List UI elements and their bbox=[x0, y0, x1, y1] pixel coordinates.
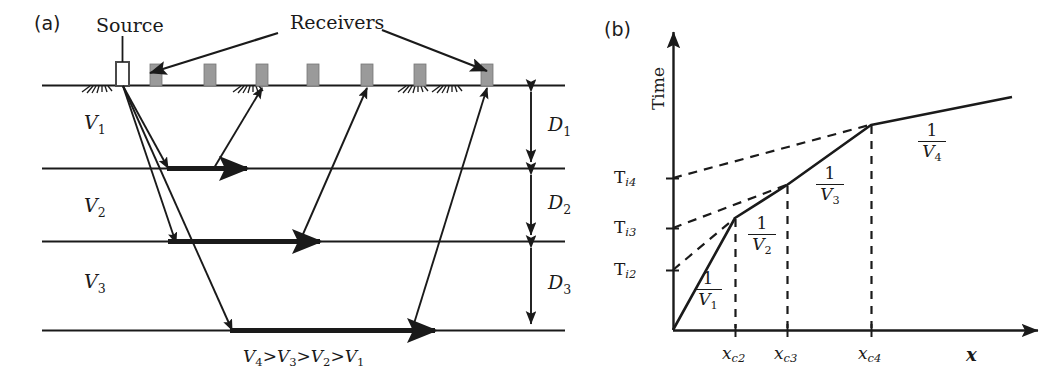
receiver-marker bbox=[361, 64, 373, 86]
velocity-label-v1-base: V bbox=[84, 111, 98, 133]
figure-root: (a) Source Receivers V1 V2 V3 D1 D2 D3 V… bbox=[0, 0, 1060, 391]
receiver-markers bbox=[150, 64, 493, 86]
receiver-marker bbox=[481, 64, 493, 86]
slope-v2-denominator: V2 bbox=[746, 236, 778, 257]
y-tick-ti2-sub: i2 bbox=[625, 267, 636, 281]
slope-v1-denominator: V1 bbox=[692, 291, 724, 312]
slope-label-1-over-v4: 1 V4 bbox=[916, 122, 948, 164]
depth-label-d1-base: D bbox=[548, 113, 563, 135]
ineq-op-1: > bbox=[263, 346, 277, 366]
x-tick-xc3-sub: c3 bbox=[784, 351, 798, 365]
x-tick-xc4-base: x bbox=[858, 343, 868, 363]
y-tick-ti4-sub: i4 bbox=[625, 175, 636, 189]
slope-v2-numerator: 1 bbox=[746, 215, 778, 233]
y-axis-title: Time bbox=[650, 67, 667, 110]
ineq-v1-sub: 1 bbox=[357, 355, 364, 369]
ray-path-layer3 bbox=[123, 86, 487, 331]
surface-hatching bbox=[82, 86, 462, 93]
slope-label-1-over-v2: 1 V2 bbox=[746, 215, 778, 257]
slope-v4-numerator: 1 bbox=[916, 122, 948, 140]
depth-label-d3-base: D bbox=[548, 271, 563, 293]
x-tick-label-xc3: xc3 bbox=[774, 345, 797, 365]
velocity-label-v3-base: V bbox=[84, 270, 98, 292]
velocity-label-v2: V2 bbox=[84, 196, 106, 219]
ineq-v4-sub: 4 bbox=[255, 355, 262, 369]
velocity-label-v1-sub: 1 bbox=[98, 122, 106, 137]
velocity-label-v3: V3 bbox=[84, 272, 106, 295]
x-axis-name: x bbox=[966, 346, 977, 364]
panel-a-tag: (a) bbox=[34, 14, 60, 33]
slope-v4-denominator: V4 bbox=[916, 143, 948, 164]
slope-label-1-over-v1: 1 V1 bbox=[692, 270, 724, 312]
ineq-op-3: > bbox=[330, 346, 344, 366]
velocity-label-v3-sub: 3 bbox=[98, 281, 106, 296]
receiver-marker bbox=[204, 64, 216, 86]
depth-label-d2-sub: 2 bbox=[563, 202, 571, 217]
panel-b-tag: (b) bbox=[604, 20, 631, 39]
x-tick-xc2-sub: c2 bbox=[732, 351, 746, 365]
x-tick-xc4-sub: c4 bbox=[868, 351, 882, 365]
y-tick-label-ti3: Ti3 bbox=[614, 219, 636, 239]
source-marker bbox=[116, 62, 129, 86]
receiver-marker bbox=[150, 64, 162, 86]
ray-path-layer1 bbox=[123, 86, 262, 169]
velocity-inequality: V4>V3>V2>V1 bbox=[243, 348, 364, 369]
slope-v3-numerator: 1 bbox=[814, 165, 846, 183]
receiver-marker bbox=[256, 64, 268, 86]
slope-v1-numerator: 1 bbox=[692, 270, 724, 288]
extension-1-over-V2 bbox=[673, 218, 735, 270]
x-tick-label-xc2: xc2 bbox=[722, 345, 745, 365]
ray-path-layer2 bbox=[123, 86, 367, 243]
y-tick-ti3-sub: i3 bbox=[625, 225, 636, 239]
velocity-label-v1: V1 bbox=[84, 113, 106, 136]
receiver-marker bbox=[307, 64, 319, 86]
depth-label-d3-sub: 3 bbox=[563, 282, 571, 297]
receivers-label: Receivers bbox=[290, 13, 384, 32]
depth-label-d1-sub: 1 bbox=[563, 124, 571, 139]
depth-label-d3: D3 bbox=[548, 273, 571, 296]
x-tick-label-xc4: xc4 bbox=[858, 345, 881, 365]
depth-label-d2-base: D bbox=[548, 191, 563, 213]
depth-label-d1: D1 bbox=[548, 115, 571, 138]
y-tick-ti2-base: T bbox=[614, 259, 625, 279]
depth-label-d2: D2 bbox=[548, 193, 571, 216]
y-tick-label-ti4: Ti4 bbox=[614, 169, 636, 189]
ineq-v1-base: V bbox=[345, 346, 357, 366]
x-tick-xc2-base: x bbox=[722, 343, 732, 363]
velocity-label-v2-sub: 2 bbox=[98, 205, 106, 220]
ineq-op-2: > bbox=[297, 346, 311, 366]
y-tick-ti4-base: T bbox=[614, 167, 625, 187]
ineq-v4-base: V bbox=[243, 346, 255, 366]
slope-v3-denominator: V3 bbox=[814, 186, 846, 207]
figure-canvas bbox=[0, 0, 1060, 391]
receiver-marker bbox=[414, 64, 426, 86]
velocity-label-v2-base: V bbox=[84, 194, 98, 216]
panel-a-graphics bbox=[42, 30, 565, 331]
ineq-v3-base: V bbox=[277, 346, 289, 366]
source-label: Source bbox=[96, 16, 164, 35]
y-tick-ti3-base: T bbox=[614, 217, 625, 237]
slope-label-1-over-v3: 1 V3 bbox=[814, 165, 846, 207]
receivers-callout-arrow-right bbox=[382, 30, 487, 71]
ineq-v3-sub: 3 bbox=[289, 355, 296, 369]
x-tick-xc3-base: x bbox=[774, 343, 784, 363]
y-tick-label-ti2: Ti2 bbox=[614, 261, 636, 281]
ineq-v2-base: V bbox=[311, 346, 323, 366]
